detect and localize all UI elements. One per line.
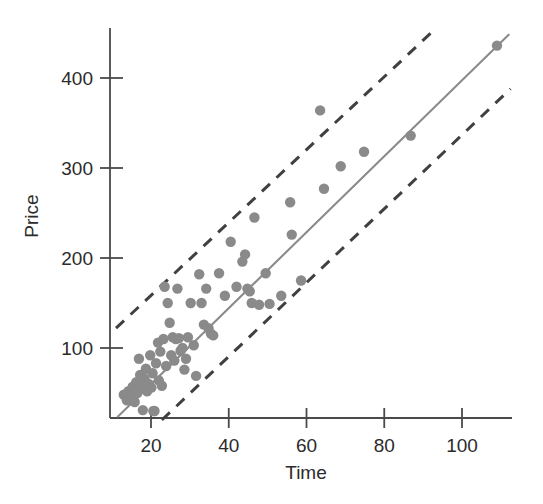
y-tick-label: 300 (61, 158, 93, 179)
data-point (315, 105, 325, 115)
data-point (149, 406, 159, 416)
data-point (249, 212, 259, 222)
data-point (169, 355, 179, 365)
data-point (245, 286, 255, 296)
data-point (191, 371, 201, 381)
data-point (260, 268, 270, 278)
y-tick-label: 200 (61, 248, 93, 269)
data-point (405, 130, 415, 140)
x-tick-label: 80 (374, 435, 395, 456)
x-axis-title: Time (285, 462, 327, 483)
data-point (189, 340, 199, 350)
data-point (254, 300, 264, 310)
data-point (214, 268, 224, 278)
data-point (185, 298, 195, 308)
data-point (181, 354, 191, 364)
x-axis: 20406080100 Time (110, 408, 512, 483)
x-axis-tick-labels: 20406080100 (140, 435, 477, 456)
data-point (158, 334, 168, 344)
data-point (174, 333, 184, 343)
data-point (163, 298, 173, 308)
y-axis-title: Price (21, 194, 42, 237)
data-point (157, 381, 167, 391)
data-point (201, 283, 211, 293)
data-point (129, 397, 139, 407)
data-point (220, 291, 230, 301)
data-point (319, 184, 329, 194)
data-point (492, 40, 502, 50)
data-point (276, 291, 286, 301)
data-point (155, 346, 165, 356)
y-axis-ticks (100, 78, 123, 348)
data-point (194, 269, 204, 279)
data-point (225, 237, 235, 247)
data-point (208, 330, 218, 340)
y-axis: 100200300400 Price (21, 28, 123, 418)
x-tick-label: 60 (296, 435, 317, 456)
data-point (240, 249, 250, 259)
data-point (177, 343, 187, 353)
data-point (296, 275, 306, 285)
data-point (285, 197, 295, 207)
data-point (134, 354, 144, 364)
lower-prediction-band (162, 89, 511, 420)
data-point (172, 283, 182, 293)
data-point (179, 364, 189, 374)
data-point (151, 358, 161, 368)
x-tick-label: 40 (218, 435, 239, 456)
y-tick-label: 400 (61, 68, 93, 89)
x-tick-label: 20 (140, 435, 161, 456)
data-point (196, 298, 206, 308)
scatter-plot-figure: 100200300400 Price 20406080100 Time (0, 0, 543, 504)
plot-canvas: 100200300400 Price 20406080100 Time (0, 0, 543, 504)
data-point (336, 161, 346, 171)
data-point (159, 282, 169, 292)
x-tick-label: 100 (446, 435, 478, 456)
y-tick-label: 100 (61, 338, 93, 359)
data-point (359, 147, 369, 157)
data-point (231, 282, 241, 292)
data-point (164, 318, 174, 328)
data-point (264, 299, 274, 309)
y-axis-tick-labels: 100200300400 (61, 68, 93, 359)
data-point (138, 405, 148, 415)
data-point (287, 229, 297, 239)
